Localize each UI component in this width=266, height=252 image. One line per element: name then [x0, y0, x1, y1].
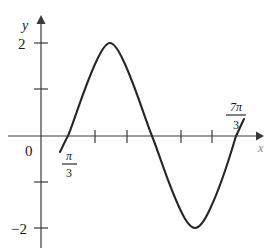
origin-label: 0 — [25, 143, 33, 159]
x-axis-arrowhead — [256, 132, 264, 141]
x-axis-label: x — [257, 141, 264, 155]
seven-pi-over-3-denominator: 3 — [233, 118, 239, 132]
seven-pi-over-3-numerator: 7π — [230, 100, 243, 114]
pi-over-3-numerator: π — [66, 149, 73, 163]
graph-canvas: y x 0 2 −2 π 3 7π 3 — [0, 0, 266, 252]
y-axis-label: y — [20, 18, 29, 33]
pi-over-3-denominator: 3 — [66, 166, 72, 180]
y-axis-arrowhead — [37, 15, 46, 24]
seven-pi-over-3-label: 7π 3 — [226, 100, 246, 132]
y-tick-label-minus-2: −2 — [11, 221, 27, 237]
pi-over-3-label: π 3 — [62, 149, 77, 180]
sine-graph-figure: y x 0 2 −2 π 3 7π 3 — [0, 0, 266, 252]
y-tick-label-2: 2 — [18, 36, 26, 52]
